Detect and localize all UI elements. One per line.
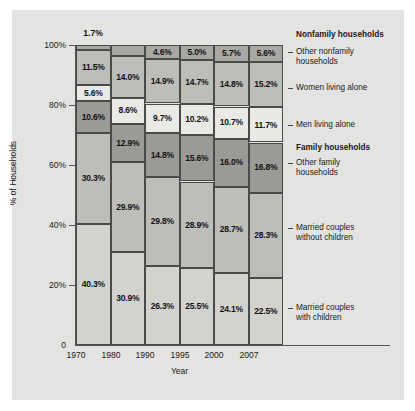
bar-column-1990[interactable]: 4.6%14.9%9.7%14.8%29.8%26.3% <box>145 45 180 345</box>
bar-segment-value: 26.3% <box>151 302 174 311</box>
bar-segment[interactable]: 11.7% <box>249 107 284 142</box>
legend-item-other-family: Other family households <box>296 158 408 178</box>
bar-segment-value: 29.8% <box>151 217 174 226</box>
plot-area: 11.5%5.6%10.6%30.3%40.3%14.0%8.6%12.9%29… <box>76 45 283 345</box>
x-axis-line <box>75 345 390 346</box>
bar-segment[interactable]: 4.6% <box>145 45 180 59</box>
legend-connector <box>288 52 293 53</box>
bar-segment-value: 14.8% <box>151 151 174 160</box>
bar-segment[interactable]: 29.8% <box>145 177 180 266</box>
bar-segment-value: 25.5% <box>185 302 208 311</box>
x-tick-label-1990: 1990 <box>125 350 165 360</box>
y-tick-label-80: 80% <box>49 100 66 110</box>
legend-item-other-nonfamily: Other nonfamily households <box>296 47 408 67</box>
legend-connector <box>288 228 293 229</box>
bar-segment[interactable]: 9.7% <box>145 104 180 133</box>
legend-item-men-living-alone: Men living alone <box>296 120 408 130</box>
bar-segment-value: 24.1% <box>220 305 243 314</box>
x-tick-label-2007: 2007 <box>229 350 269 360</box>
bar-segment[interactable]: 14.9% <box>145 59 180 104</box>
bar-segment-value: 30.3% <box>82 174 105 183</box>
legend-label-line1: Other nonfamily <box>296 47 408 57</box>
bar-column-1995[interactable]: 5.0%14.7%10.2%15.6%28.9%25.5% <box>180 45 215 345</box>
bar-segment[interactable]: 29.9% <box>111 162 146 252</box>
bar-segment[interactable]: 16.8% <box>249 143 284 193</box>
bar-segment-value: 8.6% <box>118 106 137 115</box>
legend-label-line1: Other family <box>296 158 408 168</box>
bar-segment-value: 10.6% <box>82 113 105 122</box>
bar-segment[interactable]: 25.5% <box>180 268 215 345</box>
bar-segment-value: 30.9% <box>116 294 139 303</box>
bar-segment-value: 14.0% <box>116 73 139 82</box>
bar-segment-value: 5.6% <box>256 49 275 58</box>
bar-segment-value: 28.3% <box>254 231 277 240</box>
bar-segment-value: 5.7% <box>222 49 241 58</box>
bar-segment[interactable]: 30.9% <box>111 252 146 345</box>
bar-segment[interactable]: 14.7% <box>180 60 215 104</box>
bar-segment[interactable]: 28.9% <box>180 182 215 269</box>
legend-label-line1: Married couples <box>296 303 408 313</box>
bar-column-2007[interactable]: 5.6%15.2%11.7%16.8%28.3%22.5% <box>249 45 284 345</box>
legend-connector <box>288 125 293 126</box>
bar-segment-value: 14.9% <box>151 77 174 86</box>
bar-segment-value: 5.6% <box>84 89 103 98</box>
bar-segment-value: 4.6% <box>153 48 172 57</box>
bar-segment-value: 9.7% <box>153 114 172 123</box>
bar-segment-value: 16.0% <box>220 158 243 167</box>
bar-segment[interactable]: 10.7% <box>214 107 249 139</box>
bar-segment[interactable] <box>111 45 146 56</box>
bar-segment-value: 15.6% <box>185 154 208 163</box>
bar-segment-value: 16.8% <box>254 163 277 172</box>
bar-segment[interactable]: 8.6% <box>111 98 146 124</box>
bar-segment[interactable]: 14.8% <box>145 133 180 177</box>
bar-segment[interactable]: 5.6% <box>76 85 111 102</box>
legend-item-married-with-children: Married couples with children <box>296 303 408 323</box>
bar-segment[interactable]: 14.0% <box>111 56 146 98</box>
y-tick-label-60: 60% <box>49 160 66 170</box>
legend-group-family: Family households <box>296 143 408 153</box>
legend-label-line2: with children <box>296 313 408 323</box>
bar-segment-value: 15.2% <box>254 80 277 89</box>
bar-segment[interactable]: 40.3% <box>76 224 111 345</box>
bar-segment[interactable]: 15.2% <box>249 62 284 108</box>
y-tick-label-100: 100% <box>44 40 66 50</box>
bar-segment-value: 28.9% <box>185 221 208 230</box>
legend-connector <box>288 88 293 89</box>
bar-segment-value: 5.0% <box>187 48 206 57</box>
bar-segment[interactable]: 12.9% <box>111 124 146 163</box>
legend-label-line2: households <box>296 57 408 67</box>
legend-item-married-without-children: Married couples without children <box>296 223 408 243</box>
bar-segment[interactable]: 28.3% <box>249 193 284 278</box>
legend-connector <box>288 163 293 164</box>
bar-segment[interactable]: 22.5% <box>249 278 284 346</box>
bar-segment[interactable]: 24.1% <box>214 273 249 345</box>
bar-column-2000[interactable]: 5.7%14.8%10.7%16.0%28.7%24.1% <box>214 45 249 345</box>
x-tick-label-1970: 1970 <box>56 350 96 360</box>
bar-column-1970[interactable]: 11.5%5.6%10.6%30.3%40.3% <box>76 45 111 345</box>
bar-segment[interactable]: 10.6% <box>76 101 111 133</box>
bar-segment[interactable]: 5.0% <box>180 45 215 60</box>
legend-label-line1: Men living alone <box>296 120 408 130</box>
bar-segment[interactable]: 5.6% <box>249 45 284 62</box>
bar-segment[interactable]: 30.3% <box>76 133 111 224</box>
bar-segment[interactable]: 15.6% <box>180 135 215 182</box>
bar-segment[interactable]: 14.8% <box>214 62 249 106</box>
callout-1970-top-segment: 1.7% <box>68 28 118 38</box>
bar-column-1980[interactable]: 14.0%8.6%12.9%29.9%30.9% <box>111 45 146 345</box>
legend-label-line2: without children <box>296 233 408 243</box>
bar-segment-value: 29.9% <box>116 203 139 212</box>
legend-group-nonfamily: Nonfamily households <box>296 30 408 40</box>
bar-segment-value: 12.9% <box>116 139 139 148</box>
bar-segment[interactable]: 5.7% <box>214 45 249 62</box>
legend-label-line1: Married couples <box>296 223 408 233</box>
bar-segment[interactable]: 26.3% <box>145 266 180 345</box>
y-tick-label-40: 40% <box>49 220 66 230</box>
bar-segment-value: 10.7% <box>220 118 243 127</box>
bar-segment[interactable]: 28.7% <box>214 187 249 273</box>
bar-segment[interactable]: 16.0% <box>214 139 249 187</box>
y-tick-label-0: 0 <box>61 340 66 350</box>
bar-segment[interactable]: 10.2% <box>180 104 215 135</box>
bar-segment[interactable]: 11.5% <box>76 50 111 85</box>
bar-segment-value: 14.7% <box>185 78 208 87</box>
legend-label-line2: households <box>296 168 408 178</box>
